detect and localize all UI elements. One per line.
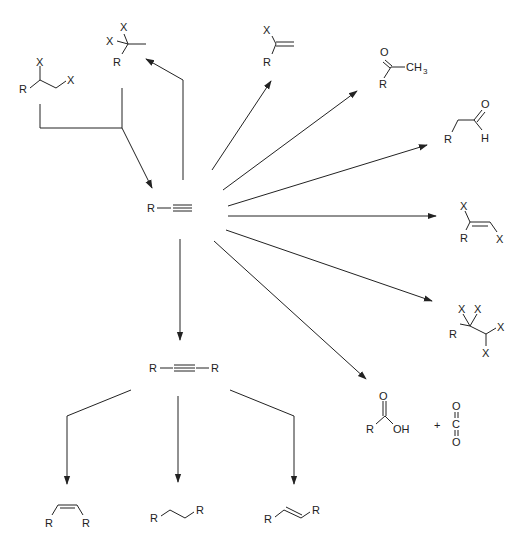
x-label: X xyxy=(482,347,490,359)
reaction-diagram: R X X X X R X R O CH 3 R R xyxy=(0,0,524,546)
r-label: R xyxy=(460,232,468,244)
gem-dihalide-structure: X X R xyxy=(106,21,146,68)
o-label: O xyxy=(379,390,388,402)
r-label: R xyxy=(196,504,204,516)
r-label: R xyxy=(19,83,27,95)
r-label: R xyxy=(449,328,457,340)
arrow-to-aldehyde xyxy=(228,145,427,206)
r-label: R xyxy=(264,513,272,525)
arrow-to-cis-alkene xyxy=(67,390,131,484)
x-label: X xyxy=(67,74,75,86)
x-label: X xyxy=(497,321,505,333)
r-label: R xyxy=(379,78,387,90)
x-label: X xyxy=(458,303,466,315)
x-label: X xyxy=(496,233,504,245)
terminal-alkyne-structure: R xyxy=(147,202,192,214)
x-label: X xyxy=(474,303,482,315)
plus-sign: + xyxy=(434,419,440,431)
arrow-dihalide-to-alkyne xyxy=(40,88,152,188)
r-label: R xyxy=(45,517,53,529)
subscript-3: 3 xyxy=(423,67,428,76)
r-label: R xyxy=(150,512,158,524)
r-label: R xyxy=(366,423,374,435)
methyl-ketone-structure: O CH 3 R xyxy=(379,46,428,90)
x-label: X xyxy=(120,21,128,33)
r-label: R xyxy=(312,504,320,516)
r-label: R xyxy=(113,56,121,68)
ch-label: CH xyxy=(406,61,422,73)
trans-alkene-structure: R R xyxy=(264,504,320,525)
r-label: R xyxy=(82,517,90,529)
vinyl-halide-structure: X R xyxy=(263,24,294,68)
alkane-structure: R R xyxy=(150,504,204,524)
dihaloalkene-structure: X R X xyxy=(460,200,504,245)
r-label: R xyxy=(444,133,452,145)
o-label: O xyxy=(481,98,490,110)
arrow-to-methyl-ketone xyxy=(223,91,357,190)
r-label: R xyxy=(211,362,219,374)
internal-alkyne-structure: R R xyxy=(149,362,219,374)
o-label: O xyxy=(452,400,461,412)
carboxylic-acid-structure: O R OH xyxy=(366,390,410,435)
x-label: X xyxy=(263,24,271,36)
h-label: H xyxy=(481,132,489,144)
carbon-dioxide-structure: O C O xyxy=(452,400,461,448)
oh-label: OH xyxy=(393,423,410,435)
x-label: X xyxy=(106,35,114,47)
c-label: C xyxy=(452,418,460,430)
arrow-to-trans-alkene xyxy=(230,390,294,484)
arrow-to-carboxylic-acid xyxy=(214,241,366,379)
x-label: X xyxy=(460,200,468,212)
aldehyde-structure: R O H xyxy=(444,98,490,145)
cis-alkene-structure: R R xyxy=(45,505,90,529)
o-label: O xyxy=(452,436,461,448)
r-label: R xyxy=(147,202,155,214)
tetrahaloalkane-structure: X X R X X xyxy=(449,303,505,359)
arrow-to-tetrahaloalkane xyxy=(226,230,432,301)
vicinal-dihalide-structure: R X X xyxy=(19,56,75,95)
arrow-to-vinyl-halide xyxy=(212,81,271,170)
r-label: R xyxy=(263,56,271,68)
arrow-to-gem-dihalide xyxy=(146,59,183,180)
x-label: X xyxy=(36,56,44,68)
o-label: O xyxy=(380,46,389,58)
r-label: R xyxy=(149,362,157,374)
